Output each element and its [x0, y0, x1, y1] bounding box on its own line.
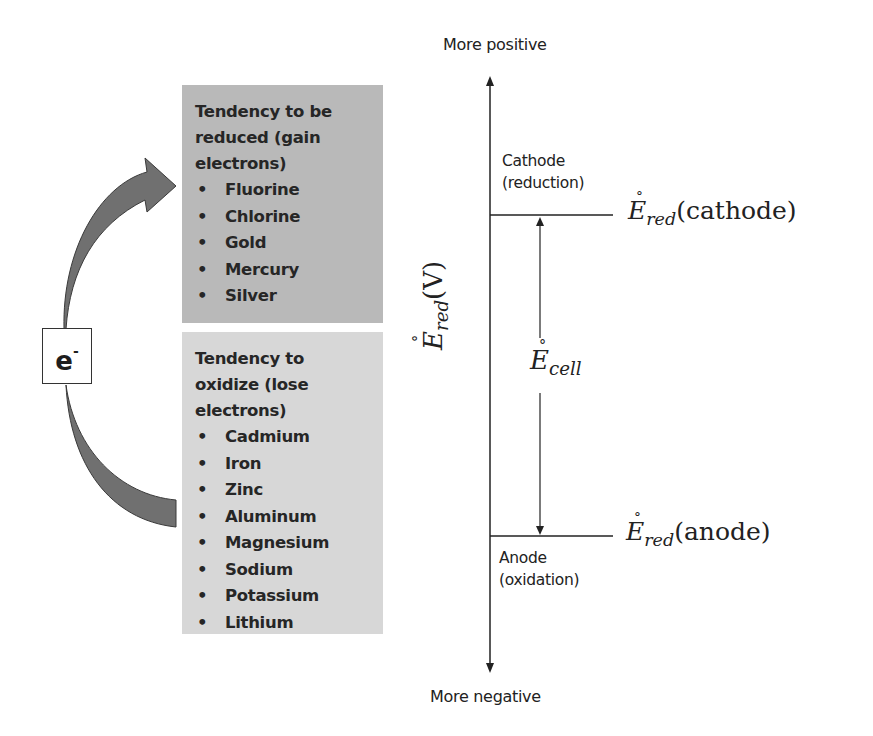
bullet-icon: • — [197, 530, 207, 557]
element-name: Cadmium — [225, 427, 310, 446]
cathode-label: Cathode (reduction) — [502, 150, 584, 194]
element-name: Magnesium — [225, 533, 329, 552]
list-item: •Zinc — [195, 477, 373, 504]
cathode-potential: E° red(cathode) — [628, 196, 797, 229]
lower-arrow-shape — [66, 385, 176, 527]
degree-symbol: ° — [636, 188, 643, 204]
list-item: •Gold — [195, 230, 373, 257]
list-item: •Aluminum — [195, 504, 373, 531]
list-item: •Fluorine — [195, 177, 373, 204]
bullet-icon: • — [197, 204, 207, 231]
element-name: Gold — [225, 233, 266, 252]
argument: (cathode) — [676, 196, 796, 225]
heading-line: Tendency to — [195, 346, 373, 372]
list-item: •Magnesium — [195, 530, 373, 557]
element-name: Potassium — [225, 586, 319, 605]
argument: (anode) — [674, 517, 770, 546]
reduction-tendency-box: Tendency to be reduced (gain electrons) … — [182, 85, 383, 323]
reduction-box-heading: Tendency to be reduced (gain electrons) — [195, 99, 373, 177]
bullet-icon: • — [197, 283, 207, 310]
electron-charge: - — [73, 343, 79, 359]
bullet-icon: • — [197, 610, 207, 637]
degree-symbol: ° — [634, 509, 641, 525]
list-item: •Cadmium — [195, 424, 373, 451]
degree-symbol: ° — [539, 337, 546, 353]
label-line: Cathode — [502, 150, 584, 172]
degree-symbol: ° — [410, 335, 426, 342]
reduction-element-list: •Fluorine •Chlorine •Gold •Mercury •Silv… — [195, 177, 373, 310]
list-item: •Potassium — [195, 583, 373, 610]
list-item: •Chlorine — [195, 204, 373, 231]
electron-box: e- — [42, 328, 92, 384]
axis-up-arrowhead-icon — [486, 76, 494, 86]
element-name: Chlorine — [225, 207, 300, 226]
oxidation-tendency-box: Tendency to oxidize (lose electrons) •Ca… — [182, 332, 383, 634]
bullet-icon: • — [197, 504, 207, 531]
axis-bottom-label: More negative — [430, 686, 541, 708]
heading-line: oxidize (lose — [195, 372, 373, 398]
bullet-icon: • — [197, 257, 207, 284]
element-name: Iron — [225, 454, 261, 473]
electron-symbol: e — [55, 346, 73, 376]
anode-label: Anode (oxidation) — [499, 547, 579, 591]
heading-line: Tendency to be — [195, 99, 373, 125]
list-item: •Iron — [195, 451, 373, 478]
element-name: Sodium — [225, 560, 293, 579]
label-line: (reduction) — [502, 172, 584, 194]
subscript: red — [644, 530, 674, 550]
element-name: Aluminum — [225, 507, 316, 526]
element-name: Lithium — [225, 613, 293, 632]
bullet-icon: • — [197, 230, 207, 257]
element-name: Silver — [225, 286, 276, 305]
bullet-icon: • — [197, 583, 207, 610]
bullet-icon: • — [197, 451, 207, 478]
cell-potential: E° cell — [530, 345, 582, 379]
label-line: Anode — [499, 547, 579, 569]
subscript: red — [431, 300, 452, 331]
unit: (V) — [418, 261, 448, 300]
ecell-down-arrowhead-icon — [536, 526, 544, 535]
label-line: (oxidation) — [499, 569, 579, 591]
bullet-icon: • — [197, 557, 207, 584]
upper-arrow-shape — [64, 158, 176, 329]
heading-line: reduced (gain — [195, 125, 373, 151]
bullet-icon: • — [197, 177, 207, 204]
oxidation-element-list: •Cadmium •Iron •Zinc •Aluminum •Magnesiu… — [195, 424, 373, 636]
element-name: Fluorine — [225, 180, 299, 199]
bullet-icon: • — [197, 477, 207, 504]
subscript: cell — [549, 358, 582, 379]
element-name: Mercury — [225, 260, 299, 279]
axis-top-label: More positive — [443, 34, 547, 56]
list-item: •Sodium — [195, 557, 373, 584]
anode-potential: E° red(anode) — [626, 517, 771, 550]
heading-line: electrons) — [195, 398, 373, 424]
axis-down-arrowhead-icon — [486, 663, 494, 673]
electron-transfer-arrow-icon — [0, 0, 873, 736]
subscript: red — [646, 209, 676, 229]
oxidation-box-heading: Tendency to oxidize (lose electrons) — [195, 346, 373, 424]
element-name: Zinc — [225, 480, 263, 499]
y-axis-label: E° red(V) — [418, 190, 452, 350]
list-item: •Mercury — [195, 257, 373, 284]
bullet-icon: • — [197, 424, 207, 451]
list-item: •Lithium — [195, 610, 373, 637]
heading-line: electrons) — [195, 151, 373, 177]
list-item: •Silver — [195, 283, 373, 310]
ecell-up-arrowhead-icon — [536, 217, 544, 226]
